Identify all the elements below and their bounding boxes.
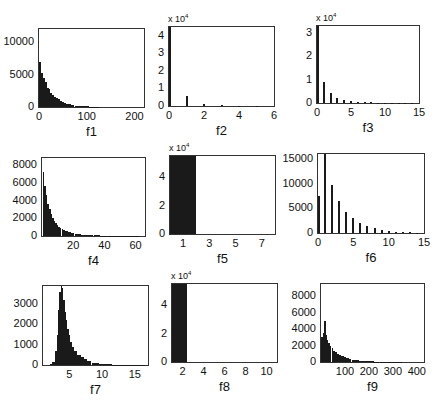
y-tick-label: 3000 (0, 297, 38, 309)
y-tick-label: 6000 (276, 306, 316, 318)
y-tick-label: 2 (124, 64, 164, 76)
histogram-bar (221, 105, 223, 106)
x-tick-label: 15 (409, 236, 439, 248)
y-tick-label: 2 (272, 49, 312, 61)
x-axis-label: f2 (202, 123, 242, 138)
histogram-bar (374, 228, 376, 233)
histogram-bar (370, 102, 372, 103)
histogram-bar (395, 232, 397, 233)
x-tick-label: 5 (338, 236, 368, 248)
x-tick-label: 40 (89, 239, 119, 251)
y-tick-label: 1 (272, 73, 312, 85)
y-tick-label: 8000 (0, 158, 37, 170)
y-tick-label: 4 (124, 29, 164, 41)
histogram-bar (336, 98, 338, 103)
y-tick-label: 2000 (0, 211, 37, 223)
y-tick-label: 4 (127, 298, 167, 310)
histogram-bar (402, 232, 404, 233)
y-tick-label: 1 (124, 81, 164, 93)
x-axis-label: f6 (351, 250, 391, 265)
histogram-bar (343, 100, 345, 103)
x-tick-label: 0 (24, 110, 54, 122)
y-tick-label: 1000 (0, 338, 38, 350)
histogram-bar (364, 102, 366, 103)
histogram-bar (381, 230, 383, 233)
y-axis-multiplier: x 104 (171, 271, 191, 281)
x-axis-label: f7 (76, 382, 116, 397)
histogram-bar (170, 156, 196, 234)
histogram-bar (86, 361, 91, 365)
x-tick-label: 10 (370, 106, 400, 118)
axes-f7 (42, 285, 149, 366)
y-axis-multiplier: x 104 (316, 13, 336, 23)
x-tick-label: 15 (404, 106, 434, 118)
y-tick-label: 3 (124, 46, 164, 58)
histogram-bar (186, 96, 188, 106)
x-tick-label: 20 (58, 239, 88, 251)
histogram-bar (388, 231, 390, 233)
x-axis-label: f3 (348, 120, 388, 135)
histogram-bar (357, 102, 359, 103)
y-tick-label: 4000 (0, 194, 37, 206)
histogram-bar (323, 82, 325, 103)
x-axis-label: f5 (203, 251, 243, 266)
y-tick-label: 5000 (273, 201, 313, 213)
x-tick-label: 200 (119, 110, 149, 122)
x-axis-label: f1 (72, 124, 112, 139)
y-tick-label: 4 (125, 170, 165, 182)
histogram-bar (338, 201, 340, 233)
histogram-bar (203, 104, 205, 106)
histogram-bar (318, 196, 320, 233)
histogram-bar (169, 27, 171, 106)
x-tick-label: 7 (247, 237, 277, 249)
x-tick-label: 400 (402, 365, 432, 377)
x-axis-label: f4 (74, 253, 114, 268)
histogram-bar (317, 26, 319, 103)
histogram-bar (172, 284, 187, 362)
histogram-bar (352, 218, 354, 233)
x-tick-label: 2 (189, 109, 219, 121)
y-tick-label: 0 (0, 358, 38, 370)
histogram-bar (359, 223, 361, 233)
y-tick-label: 2 (127, 327, 167, 339)
axes-f8 (171, 283, 278, 363)
y-tick-label: 0 (125, 227, 165, 239)
x-tick-label: 100 (72, 110, 102, 122)
axes-f9 (320, 283, 425, 363)
histogram-bar (71, 105, 75, 107)
y-axis-multiplier: x 104 (169, 143, 189, 153)
x-tick-label: 4 (224, 109, 254, 121)
y-tick-label: 2000 (276, 339, 316, 351)
axes-f2 (168, 26, 275, 107)
y-tick-label: 2000 (0, 317, 38, 329)
x-axis-label: f9 (353, 379, 393, 394)
x-tick-label: 5 (336, 106, 366, 118)
histogram-bar (409, 232, 411, 233)
x-tick-label: 0 (303, 236, 333, 248)
y-tick-label: 5000 (0, 68, 34, 80)
x-tick-label: 5 (54, 368, 84, 380)
y-tick-label: 3 (272, 26, 312, 38)
histogram-bar (366, 226, 368, 233)
y-tick-label: 10000 (273, 177, 313, 189)
y-axis-multiplier: x 104 (168, 14, 188, 24)
y-tick-label: 15000 (273, 152, 313, 164)
x-tick-label: 0 (302, 106, 332, 118)
y-tick-label: 0 (127, 355, 167, 367)
y-tick-label: 10000 (0, 35, 34, 47)
y-tick-label: 6000 (0, 176, 37, 188)
y-tick-label: 4000 (276, 322, 316, 334)
y-tick-label: 8000 (276, 289, 316, 301)
x-tick-label: 10 (87, 368, 117, 380)
y-tick-label: 0 (276, 355, 316, 367)
x-tick-label: 10 (374, 236, 404, 248)
histogram-bar (331, 185, 333, 233)
y-tick-label: 0 (0, 229, 37, 241)
histogram-bar (330, 93, 332, 104)
x-tick-label: 6 (259, 109, 289, 121)
histogram-bar (345, 212, 347, 233)
axes-f3 (316, 25, 420, 104)
axes-f5 (169, 155, 276, 235)
x-tick-label: 0 (154, 109, 184, 121)
axes-f4 (41, 157, 146, 237)
